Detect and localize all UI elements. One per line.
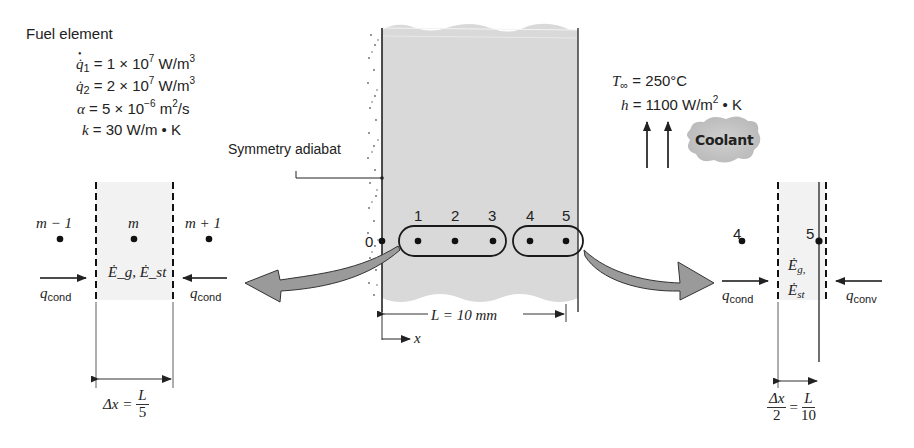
q-subscript: cond: [730, 293, 754, 305]
q2-value: = 2 × 10: [94, 77, 149, 94]
property-q1: q̇1 = 1 × 107 W/m3: [76, 54, 195, 74]
right-zoom-arrow: [584, 250, 714, 300]
node-label-3: 3: [488, 208, 496, 223]
half-dx-fraction: Δx 2: [767, 391, 786, 424]
alpha-value: = 5 × 10: [89, 100, 144, 117]
alpha-unit: m: [156, 100, 173, 117]
q-subscript: cond: [48, 291, 72, 303]
length-dimension-label: L = 10 mm: [431, 307, 497, 323]
symmetry-adiabat-label: Symmetry adiabat: [228, 142, 341, 156]
q2-unit: W/m: [154, 77, 189, 94]
q1-unit: W/m: [154, 55, 189, 72]
length-value: L = 10 mm: [431, 307, 497, 323]
node-label-1: 1: [414, 208, 422, 223]
node-m-label: m: [128, 216, 139, 231]
h-tail: • K: [718, 96, 742, 113]
half-dx-denominator: 2: [773, 408, 781, 424]
node-m-minus-1-label: m − 1: [36, 216, 72, 231]
property-q2: q̇2 = 2 × 107 W/m3: [76, 76, 195, 96]
alpha-unit-tail: /s: [178, 100, 190, 117]
q2-symbol: q̇: [76, 78, 84, 94]
L-denominator: 10: [801, 408, 816, 424]
alpha-symbol: α: [77, 101, 85, 117]
node-5-label: 5: [806, 226, 814, 241]
q-symbol: q: [722, 287, 730, 303]
T-value: = 250°C: [632, 72, 687, 89]
q-symbol: q: [40, 285, 48, 301]
right-energy-gen: Ėg,: [788, 258, 805, 275]
coolant-label: Coolant: [695, 132, 753, 148]
node-4-label: 4: [733, 226, 741, 241]
q2-subscript: 2: [84, 84, 90, 96]
adiabat-hatching: [367, 34, 379, 296]
q1-value: = 1 × 10: [94, 55, 149, 72]
fuel-slab: [382, 24, 578, 302]
dx-numerator: L: [136, 388, 148, 405]
property-k: k = 30 W/m • K: [82, 122, 181, 138]
q-subscript: conv: [854, 293, 877, 305]
left-qcond-out: qcond: [190, 285, 221, 303]
alpha-exp: −6: [144, 98, 155, 109]
x-axis-label: x: [414, 331, 421, 346]
Eg-symbol: Ė: [788, 257, 797, 273]
q-subscript: cond: [198, 291, 222, 303]
q1-unit-exp: 3: [189, 53, 195, 64]
property-alpha: α = 5 × 10−6 m2/s: [77, 99, 189, 117]
q-symbol: q: [190, 285, 198, 301]
adiabat-leader-line: [296, 171, 382, 178]
node-label-2: 2: [451, 208, 459, 223]
node-label-0: 0: [365, 234, 373, 249]
right-energy-stored: Ėst: [788, 283, 805, 300]
T-subscript: ∞: [620, 79, 628, 91]
L-numerator: L: [802, 391, 814, 408]
right-half-dx-label: Δx 2 = L 10: [767, 391, 816, 424]
heat-transfer-coefficient: h = 1100 W/m2 • K: [621, 95, 742, 113]
h-symbol: h: [621, 97, 629, 113]
L-over-10-fraction: L 10: [801, 391, 816, 424]
h-value: = 1100 W/m: [633, 96, 713, 113]
dx-fraction: L 5: [136, 388, 148, 421]
dx-denominator: 5: [139, 405, 147, 421]
right-qconv: qconv: [846, 287, 877, 305]
left-dx-label: Δx = L 5: [103, 388, 149, 421]
equals-sign: =: [789, 400, 797, 415]
q1-symbol: q̇: [76, 57, 84, 72]
node-label-4: 4: [526, 208, 534, 223]
Eg-subscript: g,: [797, 263, 805, 275]
fuel-element-title: Fuel element: [26, 26, 113, 41]
coolant-temperature: T∞ = 250°C: [612, 73, 687, 91]
half-dx-numerator: Δx: [767, 391, 786, 408]
q2-unit-exp: 3: [189, 75, 195, 86]
right-qcond: qcond: [722, 287, 753, 305]
q-symbol: q: [846, 287, 854, 303]
node-m-plus-1-label: m + 1: [185, 216, 221, 231]
Est-subscript: st: [797, 288, 804, 300]
left-qcond-in: qcond: [40, 285, 71, 303]
k-value: = 30 W/m • K: [93, 121, 181, 138]
node-label-5: 5: [562, 208, 570, 223]
k-symbol: k: [82, 122, 89, 138]
Est-symbol: Ė: [788, 282, 797, 298]
dx-lhs: Δx =: [103, 397, 132, 412]
left-energy-label: Ė_g, Ė_st: [108, 265, 166, 280]
q1-subscript: 1: [84, 62, 90, 74]
left-zoom-arrow: [245, 246, 400, 302]
